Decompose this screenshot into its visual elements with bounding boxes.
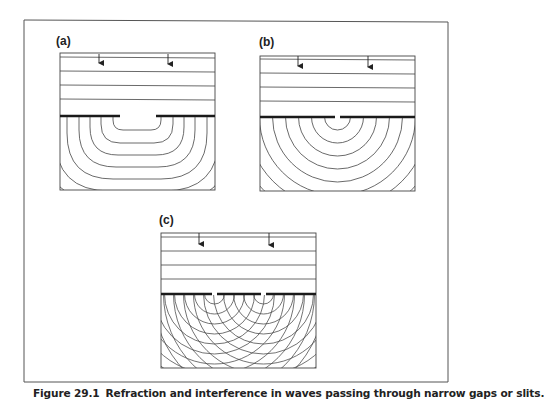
figure-caption: Figure 29.1Refraction and interference i… xyxy=(33,387,544,399)
figure-caption-text: Refraction and interference in waves pas… xyxy=(106,387,544,399)
panel-b-box xyxy=(260,56,415,191)
panel-a: (a) xyxy=(44,34,230,203)
panel-b: (b) xyxy=(234,13,442,221)
incident-wavefronts xyxy=(260,59,415,102)
down-arrow-icon xyxy=(199,233,269,245)
incident-wavefronts xyxy=(161,237,316,279)
panel-c-label: (c) xyxy=(159,213,174,227)
panel-b-label: (b) xyxy=(259,35,274,49)
figure-number: Figure 29.1 xyxy=(33,387,100,399)
panel-a-box xyxy=(60,53,215,190)
down-arrow-icon xyxy=(298,56,368,67)
panel-a-label: (a) xyxy=(56,34,71,48)
down-arrow-icon xyxy=(99,54,168,64)
panel-c: (c) xyxy=(105,184,374,404)
incident-wavefronts xyxy=(60,57,215,100)
